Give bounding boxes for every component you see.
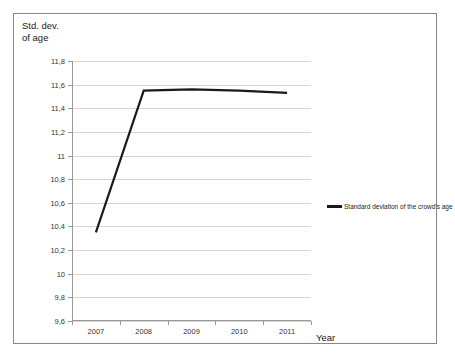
x-axis-tick [215,321,216,325]
y-axis-tick-label: 10,6 [50,198,65,207]
legend-swatch-icon [327,205,342,208]
x-axis-tick [120,321,121,325]
x-axis-tick [168,321,169,325]
y-axis-tick-label: 10 [57,269,65,278]
x-axis-tick-label: 2009 [183,327,200,336]
y-axis-tick-label: 11,8 [51,57,65,66]
y-axis-tick-label: 11 [57,151,65,160]
series-line-chart [72,61,311,321]
y-axis-tick-label: 9,6 [55,317,65,326]
legend-item-label: Standard deviation of the crowd's age [344,203,453,210]
gridline [72,321,311,322]
x-axis-tick [72,321,73,325]
plot-area: 9,69,81010,210,410,610,81111,211,411,611… [72,61,311,321]
y-axis-tick-label: 10,8 [50,175,65,184]
x-axis-title: Year [316,332,335,343]
x-axis-tick-label: 2008 [135,327,152,336]
x-axis-tick-label: 2007 [88,327,105,336]
x-axis-tick [311,321,312,325]
y-axis-tick-label: 11,6 [51,80,65,89]
chart-title: Std. dev. of age [22,20,59,44]
y-axis-tick-label: 11,4 [51,104,65,113]
x-axis-tick-label: 2011 [279,327,295,336]
legend: Standard deviation of the crowd's age [327,203,453,210]
y-axis-tick-label: 10,2 [50,246,65,255]
x-axis-tick [263,321,264,325]
y-axis-tick-label: 10,4 [50,222,65,231]
x-axis-tick-label: 2010 [231,327,248,336]
chart-frame: Std. dev. of age Year 9,69,81010,210,410… [13,13,437,344]
series-line-standard-deviation [96,89,287,232]
y-axis-tick-label: 11,2 [51,127,65,136]
y-axis-tick-label: 9,8 [55,293,65,302]
